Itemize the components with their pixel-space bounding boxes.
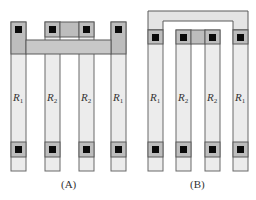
contact-icon — [209, 34, 216, 41]
bridge-b-r2 — [191, 30, 205, 44]
contact-icon — [83, 26, 90, 33]
interconnect-bar-a — [26, 40, 111, 54]
contact-icon — [15, 26, 22, 33]
contact-icon — [83, 146, 90, 153]
contact-icon — [49, 26, 56, 33]
panel-b: R1 R2 R2 R1 (B) — [148, 11, 248, 191]
panel-caption-a: (A) — [61, 178, 77, 191]
contact-icon — [152, 146, 159, 153]
contact-icon — [115, 146, 122, 153]
contact-icon — [180, 34, 187, 41]
contact-icon — [237, 34, 244, 41]
contact-icon — [209, 146, 216, 153]
interconnect-u-bar-b — [148, 11, 248, 30]
contact-icon — [152, 34, 159, 41]
panel-caption-b: (B) — [190, 178, 205, 191]
resistor-layout-diagram: R1 R2 R2 R1 (A) — [0, 0, 256, 200]
contact-icon — [15, 146, 22, 153]
panel-a: R1 R2 R2 R1 (A) — [11, 22, 126, 191]
bridge-a-r2 — [60, 22, 79, 37]
contact-icon — [180, 146, 187, 153]
contact-icon — [49, 146, 56, 153]
contact-icon — [115, 26, 122, 33]
contact-icon — [237, 146, 244, 153]
